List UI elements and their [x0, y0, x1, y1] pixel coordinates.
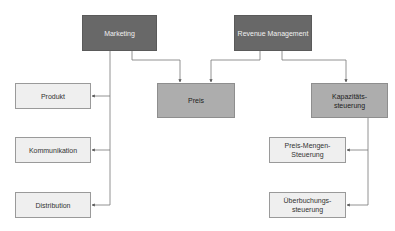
node-produkt: Produkt	[15, 83, 91, 109]
node-kapazitaetssteuerung: Kapazitäts- steuerung	[311, 83, 388, 118]
node-preis-mengen-label-1: Preis-Mengen-	[285, 141, 331, 150]
node-ueberbuchungssteuerung: Überbuchungs- steuerung	[269, 192, 346, 218]
node-ueberbuchung-label-2: steuerung	[292, 205, 323, 214]
edge-revenue-preis	[211, 51, 260, 82]
node-kapazitaet-label-1: Kapazitäts-	[332, 92, 367, 101]
node-kommunikation: Kommunikation	[15, 137, 91, 163]
node-revenue-management-label: Revenue Management	[238, 29, 309, 38]
node-revenue-management: Revenue Management	[234, 15, 312, 51]
node-preis-label: Preis	[188, 96, 204, 105]
node-distribution-label: Distribution	[35, 201, 70, 210]
node-produkt-label: Produkt	[41, 92, 65, 101]
node-distribution: Distribution	[15, 192, 91, 218]
node-ueberbuchung-label-1: Überbuchungs-	[284, 196, 332, 205]
node-marketing-label: Marketing	[104, 29, 135, 38]
node-preis-mengen-label-2: Steuerung	[291, 150, 323, 159]
node-marketing: Marketing	[82, 15, 157, 51]
node-kommunikation-label: Kommunikation	[29, 146, 77, 155]
node-preis: Preis	[157, 83, 235, 118]
edge-marketing-preis	[132, 51, 180, 82]
edge-revenue-kapazitaet	[282, 51, 346, 82]
node-preis-mengen-steuerung: Preis-Mengen- Steuerung	[269, 137, 346, 163]
node-kapazitaet-label-2: steuerung	[334, 101, 365, 110]
